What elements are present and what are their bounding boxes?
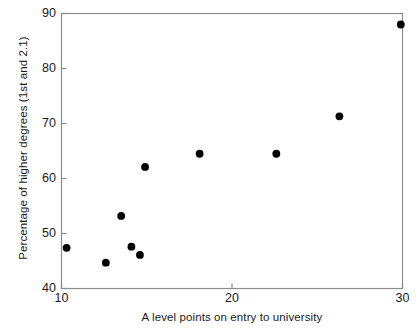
scatter-chart-figure: Percentage of higher degrees (1st and 2.… (0, 0, 419, 333)
axis-ticks (62, 14, 403, 289)
data-point (63, 244, 71, 252)
data-point (272, 150, 280, 158)
data-point (336, 112, 344, 120)
data-point (196, 150, 204, 158)
data-point (128, 243, 136, 251)
data-point (397, 21, 405, 29)
plot-frame-rect (62, 14, 403, 289)
data-point (117, 212, 125, 220)
plot-area (0, 0, 419, 333)
plot-frame (62, 14, 403, 289)
data-points (63, 21, 405, 267)
data-point (136, 251, 144, 259)
data-point (141, 163, 149, 171)
data-point (102, 259, 110, 267)
